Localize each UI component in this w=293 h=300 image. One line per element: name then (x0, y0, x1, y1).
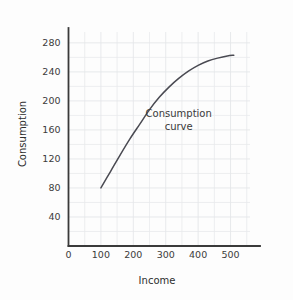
chart-figure: 0100200300400500 4080120160200240280 Inc… (0, 0, 293, 300)
x-tick-label: 400 (189, 249, 207, 260)
chart-canvas: 0100200300400500 4080120160200240280 Inc… (0, 0, 293, 300)
y-tick-label: 160 (42, 124, 60, 135)
x-tick-label: 0 (65, 249, 71, 260)
y-tick-label: 40 (48, 211, 60, 222)
x-tick-label: 500 (221, 249, 239, 260)
y-tick-label: 200 (42, 95, 60, 106)
consumption-curve-chart: 0100200300400500 4080120160200240280 Inc… (0, 0, 293, 300)
y-tick-labels: 4080120160200240280 (42, 37, 60, 222)
grid-minor (69, 32, 251, 246)
x-tick-label: 300 (157, 249, 175, 260)
x-tick-labels: 0100200300400500 (65, 249, 239, 260)
x-tick-label: 100 (92, 249, 110, 260)
x-tick-label: 200 (124, 249, 142, 260)
x-axis-title: Income (139, 275, 176, 286)
grid-major (69, 32, 251, 246)
y-tick-label: 280 (42, 37, 60, 48)
curve-annotation-line2: curve (165, 121, 193, 132)
y-tick-label: 80 (48, 182, 60, 193)
curve-annotation-line1: Consumption (146, 108, 212, 119)
y-tick-label: 240 (42, 66, 60, 77)
y-axis-title: Consumption (17, 101, 28, 167)
y-tick-label: 120 (42, 153, 60, 164)
axis-lines (69, 28, 261, 246)
